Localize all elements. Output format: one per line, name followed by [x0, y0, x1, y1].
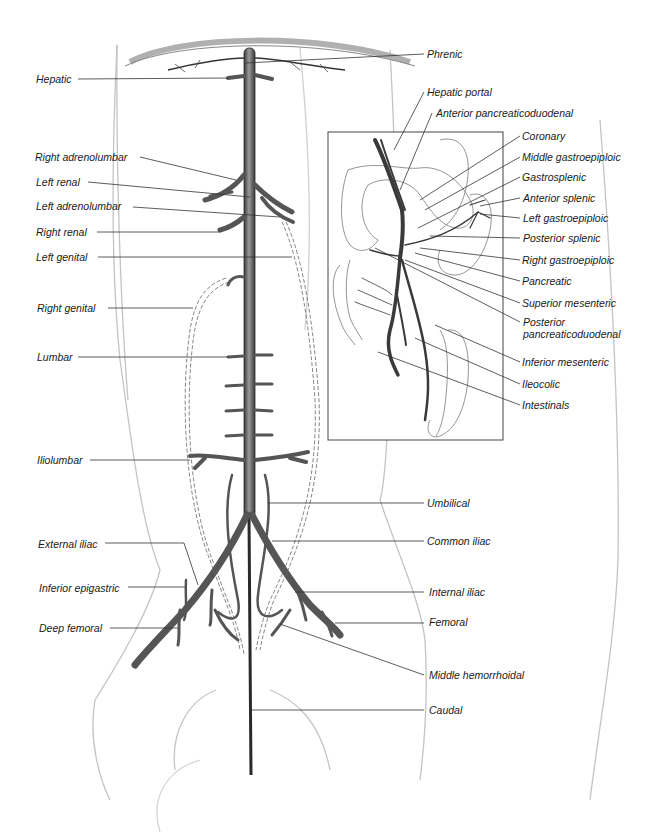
label-left-renal: Left renal	[36, 176, 80, 188]
label-superior-mesenteric: Superior mesenteric	[522, 297, 616, 309]
label-right-adrenolumbar: Right adrenolumbar	[35, 151, 127, 163]
label-internal-iliac: Internal iliac	[429, 586, 485, 598]
label-middle-hemorrhoidal: Middle hemorrhoidal	[429, 669, 524, 681]
label-phrenic: Phrenic	[427, 48, 463, 60]
label-inferior-mesenteric: Inferior mesenteric	[522, 356, 609, 368]
label-anterior-pancreaticoduodenal: Anterior pancreaticoduodenal	[436, 107, 573, 119]
label-ileocolic: Ileocolic	[522, 378, 560, 390]
label-anterior-splenic: Anterior splenic	[523, 192, 595, 204]
label-hepatic-portal: Hepatic portal	[427, 86, 492, 98]
label-lumbar: Lumbar	[37, 351, 73, 363]
label-intestinals: Intestinals	[522, 399, 569, 411]
label-hepatic: Hepatic	[36, 73, 72, 85]
label-femoral: Femoral	[429, 616, 468, 628]
label-umbilical: Umbilical	[427, 497, 470, 509]
label-posterior-splenic: Posterior splenic	[523, 232, 601, 244]
label-deep-femoral: Deep femoral	[39, 622, 102, 634]
label-posterior-pancreaticoduodenal: Posterior pancreaticoduodenal	[523, 316, 643, 340]
label-pancreatic: Pancreatic	[522, 275, 572, 287]
label-right-genital: Right genital	[37, 302, 95, 314]
label-gastrosplenic: Gastrosplenic	[522, 171, 586, 183]
vein-illustration	[0, 0, 665, 832]
postcava	[244, 48, 255, 775]
label-coronary: Coronary	[522, 130, 565, 142]
label-external-iliac: External iliac	[38, 538, 98, 550]
label-right-gastroepiploic: Right gastroepiploic	[522, 254, 614, 266]
label-left-adrenolumbar: Left adrenolumbar	[36, 200, 121, 212]
label-iliolumbar: Iliolumbar	[37, 454, 83, 466]
label-left-genital: Left genital	[36, 251, 87, 263]
label-inferior-epigastric: Inferior epigastric	[39, 582, 120, 594]
label-caudal: Caudal	[429, 704, 462, 716]
label-middle-gastroepiploic: Middle gastroepiploic	[522, 151, 621, 163]
label-common-iliac: Common iliac	[427, 535, 491, 547]
label-left-gastroepiploic: Left gastroepiploic	[523, 212, 608, 224]
inset-portal-system	[328, 132, 503, 440]
diagram-canvas: Hepatic Right adrenolumbar Left renal Le…	[0, 0, 665, 832]
label-right-renal: Right renal	[36, 226, 87, 238]
